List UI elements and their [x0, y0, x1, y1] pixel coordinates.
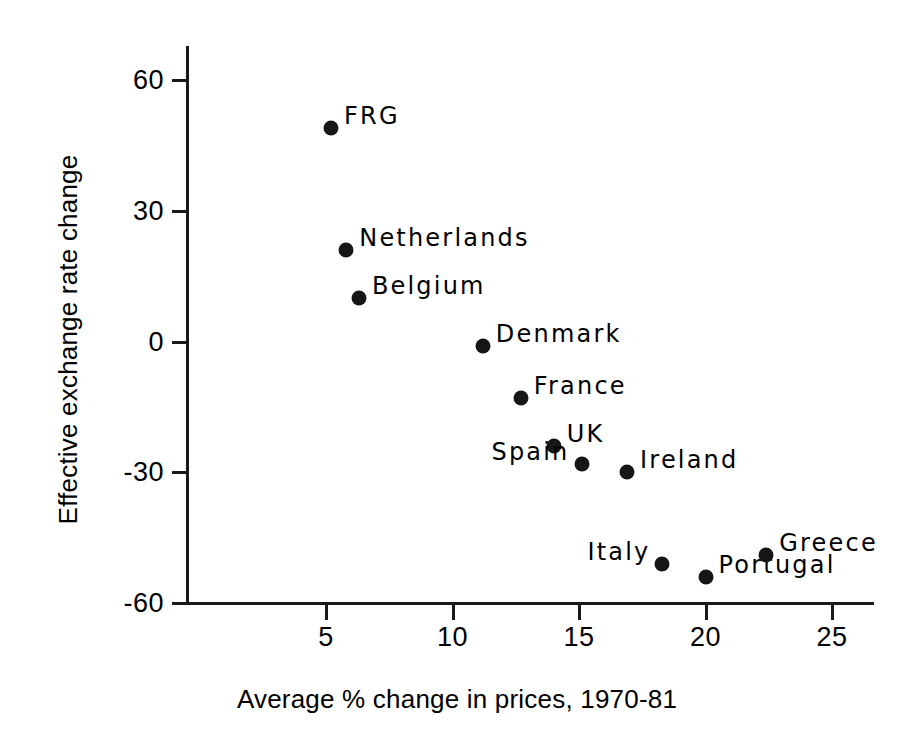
data-point-label: Denmark	[496, 320, 622, 348]
data-point-label: Spain	[491, 438, 569, 466]
y-tick	[172, 79, 187, 82]
x-axis-line	[186, 602, 874, 605]
data-point	[620, 465, 635, 480]
y-tick-label: -60	[123, 588, 164, 619]
y-tick-label: -30	[123, 457, 164, 488]
data-point	[574, 456, 589, 471]
x-tick-label: 5	[318, 622, 334, 653]
data-point	[759, 548, 774, 563]
y-tick-label: 0	[148, 326, 164, 357]
x-tick-label: 15	[563, 622, 594, 653]
scatter-plot-figure: 60300-30-60 510152025 FRGNetherlandsBelg…	[0, 0, 914, 745]
x-tick	[705, 605, 708, 620]
data-point-label: Ireland	[640, 446, 738, 474]
data-point-label: FRG	[344, 102, 400, 130]
data-point	[351, 290, 366, 305]
y-tick	[172, 210, 187, 213]
x-tick	[578, 605, 581, 620]
y-axis-line	[186, 46, 189, 605]
y-tick	[172, 471, 187, 474]
y-tick-label: 30	[133, 195, 164, 226]
y-tick	[172, 602, 187, 605]
data-point-label: Netherlands	[359, 224, 530, 252]
x-tick-label: 20	[690, 622, 721, 653]
data-point	[339, 242, 354, 257]
x-tick	[831, 605, 834, 620]
y-axis-title: Effective exchange rate change	[53, 40, 84, 640]
data-point	[475, 338, 490, 353]
x-axis-title: Average % change in prices, 1970-81	[0, 684, 914, 715]
x-tick	[452, 605, 455, 620]
y-tick-label: 60	[133, 65, 164, 96]
data-point-label: Greece	[779, 529, 878, 557]
x-tick-label: 25	[816, 622, 847, 653]
data-point-label: Belgium	[372, 272, 486, 300]
plot-area: 60300-30-60 510152025 FRGNetherlandsBelg…	[0, 0, 914, 745]
data-point-label: Italy	[587, 538, 650, 566]
data-point	[513, 391, 528, 406]
y-tick	[172, 341, 187, 344]
data-point	[698, 569, 713, 584]
data-point-label: UK	[567, 420, 605, 448]
data-point	[324, 120, 339, 135]
x-tick-label: 10	[437, 622, 468, 653]
data-point	[655, 556, 670, 571]
data-point-label: France	[534, 372, 627, 400]
x-tick	[325, 605, 328, 620]
